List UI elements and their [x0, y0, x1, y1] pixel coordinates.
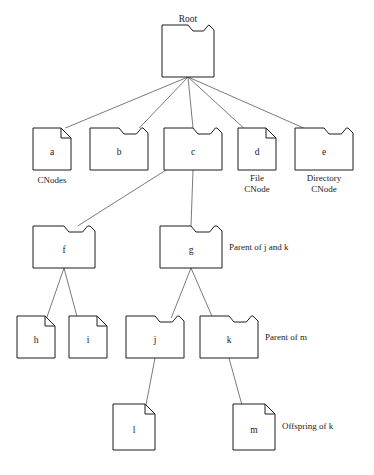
edge-g-to-k — [191, 268, 213, 318]
cnode-tree-diagram: abcdefghijklm CNodesFileCNodeDirectoryCN… — [0, 0, 374, 475]
file-fold-corner-d — [266, 128, 276, 138]
node-j[interactable]: j — [126, 316, 184, 358]
captions-layer: CNodesFileCNodeDirectoryCNodeParent of j… — [38, 173, 342, 431]
node-a[interactable]: a — [33, 128, 71, 170]
node-i[interactable]: i — [69, 316, 107, 358]
file-fold-corner-h — [45, 316, 55, 326]
caption-file-cnode-2: CNode — [244, 184, 270, 194]
caption-parent-j-k: Parent of j and k — [229, 242, 289, 252]
root-label: Root — [179, 14, 198, 24]
node-h[interactable]: h — [17, 316, 55, 358]
node-e[interactable]: e — [295, 128, 353, 170]
folder-icon-root — [162, 25, 214, 77]
node-l[interactable]: l — [113, 404, 155, 450]
caption-offspring-k: Offspring of k — [282, 421, 334, 431]
node-label-h: h — [34, 335, 39, 345]
node-g[interactable]: g — [160, 226, 222, 268]
nodes-layer: abcdefghijklm — [17, 25, 353, 450]
edge-c-to-g — [191, 170, 193, 226]
caption-file-cnode-1: File — [250, 173, 264, 183]
node-label-c: c — [191, 147, 195, 157]
file-fold-corner-i — [97, 316, 107, 326]
node-b[interactable]: b — [90, 128, 148, 170]
node-c[interactable]: c — [164, 128, 222, 170]
node-d[interactable]: d — [238, 128, 276, 170]
node-label-m: m — [250, 425, 258, 435]
caption-cnodes: CNodes — [38, 175, 67, 185]
node-label-i: i — [87, 335, 90, 345]
node-label-b: b — [117, 147, 122, 157]
caption-dir-cnode-2: CNode — [311, 184, 337, 194]
edge-j-to-l — [146, 358, 155, 406]
node-m[interactable]: m — [233, 404, 275, 450]
node-label-l: l — [133, 425, 136, 435]
edge-root-to-b — [139, 77, 188, 128]
node-label-d: d — [255, 147, 260, 157]
node-root[interactable] — [162, 25, 214, 77]
node-label-g: g — [189, 245, 194, 255]
edge-k-to-m — [229, 358, 242, 406]
node-k[interactable]: k — [200, 316, 258, 358]
edge-root-to-a — [65, 77, 188, 128]
edge-g-to-j — [171, 268, 191, 318]
file-fold-corner-m — [265, 404, 275, 414]
tree-canvas: abcdefghijklm CNodesFileCNodeDirectoryCN… — [0, 0, 374, 475]
file-fold-corner-l — [145, 404, 155, 414]
caption-dir-cnode-1: Directory — [307, 173, 342, 183]
node-label-e: e — [322, 147, 326, 157]
node-label-k: k — [227, 335, 232, 345]
caption-parent-m: Parent of m — [265, 332, 307, 342]
edge-f-to-i — [64, 268, 77, 318]
edge-c-to-f — [78, 170, 166, 226]
edge-root-to-e — [188, 77, 304, 128]
node-label-j: j — [153, 335, 157, 345]
edge-root-to-d — [188, 77, 244, 128]
root-label-layer: Root — [179, 14, 198, 24]
file-fold-corner-a — [61, 128, 71, 138]
edge-root-to-c — [188, 77, 193, 128]
node-f[interactable]: f — [33, 226, 95, 268]
edge-f-to-h — [47, 268, 64, 318]
